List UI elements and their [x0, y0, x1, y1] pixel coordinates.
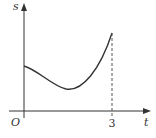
origin-label: O [11, 116, 20, 129]
y-axis-label: s [13, 0, 19, 13]
y-axis-arrow-icon [21, 3, 27, 11]
curve [24, 33, 112, 89]
x-axis-label: t [144, 116, 149, 129]
chart: s t O 3 [0, 0, 156, 138]
x-axis-arrow-icon [143, 108, 151, 114]
x-tick-label-3: 3 [109, 117, 116, 130]
